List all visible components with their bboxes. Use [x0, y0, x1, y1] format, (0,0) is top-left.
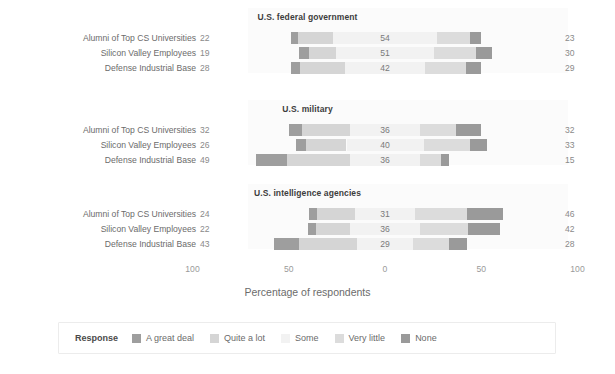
legend-item-label: Very little	[349, 333, 386, 343]
bar-segment	[350, 223, 419, 235]
table-row: Alumni of Top CS Universities222354	[0, 32, 615, 44]
bar-segment	[357, 238, 413, 250]
legend-swatch	[401, 334, 410, 343]
x-axis-tick: 100	[558, 262, 598, 276]
bar-segment	[424, 139, 470, 151]
bar-segment	[309, 208, 317, 220]
legend-title: Response	[75, 333, 118, 343]
bar-segment	[299, 47, 309, 59]
stacked-bar: 36	[0, 124, 615, 136]
bar-segment	[420, 124, 457, 136]
bar-segment	[470, 32, 482, 44]
bar-segment	[289, 124, 302, 136]
legend-swatch	[281, 334, 290, 343]
bar-segment	[345, 62, 426, 74]
bar-segment	[425, 62, 465, 74]
bar-segment	[467, 208, 504, 220]
x-axis-tick: 100	[173, 262, 213, 276]
legend: ResponseA great dealQuite a lotSomeVery …	[58, 322, 556, 354]
bar-segment	[434, 47, 476, 59]
x-axis-tick: 50	[461, 262, 501, 276]
bar-segment	[299, 238, 357, 250]
x-axis-tick: 50	[269, 262, 309, 276]
bar-segment	[466, 62, 481, 74]
bar-segment	[415, 208, 467, 220]
bar-segment	[456, 124, 481, 136]
x-axis-title: Percentage of respondents	[0, 286, 615, 298]
bar-segment	[316, 223, 351, 235]
stacked-bar: 42	[0, 62, 615, 74]
table-row: Silicon Valley Employees193051	[0, 47, 615, 59]
bar-segment	[476, 47, 491, 59]
bar-segment	[298, 32, 333, 44]
bar-segment	[300, 62, 344, 74]
bar-segment	[274, 238, 299, 250]
legend-swatch	[210, 334, 219, 343]
bar-segment	[287, 154, 351, 166]
stacked-bar: 29	[0, 238, 615, 250]
bar-segment	[350, 124, 419, 136]
x-axis: 10050050100	[0, 262, 615, 276]
bar-segment	[468, 223, 501, 235]
bar-segment	[317, 208, 356, 220]
bar-segment	[449, 238, 466, 250]
stacked-bar: 36	[0, 154, 615, 166]
legend-item-label: None	[415, 333, 437, 343]
table-row: Defense Industrial Base491536	[0, 154, 615, 166]
bar-segment	[355, 208, 415, 220]
bar-segment	[308, 223, 316, 235]
bar-segment	[470, 139, 487, 151]
table-row: Defense Industrial Base432829	[0, 238, 615, 250]
legend-item-label: A great deal	[146, 333, 194, 343]
bar-segment	[256, 154, 287, 166]
stacked-bar: 51	[0, 47, 615, 59]
table-row: Defense Industrial Base282942	[0, 62, 615, 74]
legend-item[interactable]: Quite a lot	[210, 333, 265, 343]
bar-segment	[296, 139, 306, 151]
stacked-bar: 54	[0, 32, 615, 44]
legend-item[interactable]: A great deal	[132, 333, 194, 343]
panel-title: U.S. military	[0, 104, 615, 114]
stacked-bar: 36	[0, 223, 615, 235]
legend-item[interactable]: None	[401, 333, 437, 343]
legend-inner: ResponseA great dealQuite a lotSomeVery …	[59, 323, 453, 353]
bar-segment	[413, 238, 450, 250]
table-row: Silicon Valley Employees263340	[0, 139, 615, 151]
table-row: Alumni of Top CS Universities244631	[0, 208, 615, 220]
stacked-bar: 31	[0, 208, 615, 220]
bar-segment	[437, 32, 470, 44]
x-axis-tick: 0	[365, 262, 405, 276]
bar-segment	[420, 154, 441, 166]
bar-segment	[291, 62, 301, 74]
chart-canvas: U.S. federal governmentAlumni of Top CS …	[0, 0, 615, 374]
bar-segment	[350, 154, 419, 166]
legend-item[interactable]: Very little	[335, 333, 386, 343]
table-row: Alumni of Top CS Universities323236	[0, 124, 615, 136]
panel-title: U.S. federal government	[0, 12, 615, 22]
legend-item-label: Some	[295, 333, 319, 343]
bar-segment	[441, 154, 449, 166]
legend-swatch	[132, 334, 141, 343]
table-row: Silicon Valley Employees224236	[0, 223, 615, 235]
panel-title: U.S. intelligence agencies	[0, 188, 615, 198]
legend-swatch	[335, 334, 344, 343]
bar-segment	[309, 47, 336, 59]
legend-item[interactable]: Some	[281, 333, 319, 343]
bar-segment	[306, 139, 346, 151]
bar-segment	[420, 223, 468, 235]
stacked-bar: 40	[0, 139, 615, 151]
bar-segment	[291, 32, 299, 44]
bar-segment	[336, 47, 434, 59]
bar-segment	[347, 139, 424, 151]
bar-segment	[302, 124, 350, 136]
bar-segment	[333, 32, 437, 44]
legend-item-label: Quite a lot	[224, 333, 265, 343]
